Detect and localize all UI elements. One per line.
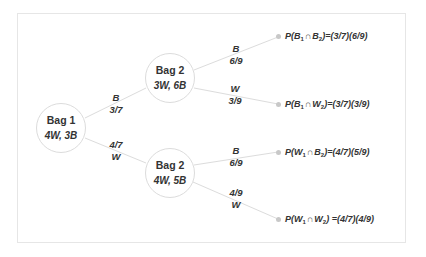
edge-label-upper-o2: W 3/9 bbox=[220, 83, 250, 107]
node-bag2-upper-contents: 3W, 6B bbox=[154, 79, 187, 93]
formula-p: P( bbox=[285, 147, 294, 157]
node-bag2-upper-title: Bag 2 bbox=[156, 64, 185, 77]
outcome-formula-4: P(W1∩W2) =(4/7)(4/9) bbox=[285, 213, 374, 228]
formula-rhs: )=(3/7)(3/9) bbox=[324, 99, 369, 109]
formula-rhs: )=(4/7)(5/9) bbox=[324, 147, 369, 157]
edge-prob: 3/7 bbox=[101, 104, 131, 116]
formula-sub1: 1 bbox=[301, 104, 304, 110]
formula-p: P( bbox=[285, 214, 294, 224]
intersection-symbol: ∩ bbox=[305, 31, 311, 41]
edge-event: W bbox=[220, 83, 250, 95]
edge-prob: 3/9 bbox=[220, 95, 250, 107]
formula-sub1: 1 bbox=[303, 219, 306, 225]
edge-label-lower-o3: B 6/9 bbox=[221, 145, 251, 169]
formula-rhs: ) =(4/7)(4/9) bbox=[326, 214, 374, 224]
edge-prob: 6/9 bbox=[221, 157, 251, 169]
edge-event: W bbox=[221, 199, 251, 211]
outcome-formula-2: P(B1∩W2)=(3/7)(3/9) bbox=[285, 98, 369, 113]
outcome-dot-4 bbox=[276, 217, 281, 222]
edge-prob: 6/9 bbox=[221, 55, 251, 67]
formula-event2: W bbox=[312, 99, 321, 109]
outcome-formula-3: P(W1∩B2)=(4/7)(5/9) bbox=[285, 146, 369, 161]
intersection-symbol: ∩ bbox=[307, 214, 313, 224]
outcome-dot-3 bbox=[276, 150, 281, 155]
edge-event: B bbox=[221, 43, 251, 55]
edge-event: W bbox=[101, 151, 131, 163]
intersection-symbol: ∩ bbox=[305, 99, 311, 109]
node-bag1-title: Bag 1 bbox=[47, 114, 76, 127]
node-bag2-lower-title: Bag 2 bbox=[156, 159, 185, 172]
node-bag2-lower: Bag 2 4W, 5B bbox=[145, 148, 195, 198]
node-bag2-upper: Bag 2 3W, 6B bbox=[145, 53, 195, 103]
formula-sub1: 1 bbox=[303, 152, 306, 158]
outcome-formula-1: P(B1∩B2)=(3/7)(6/9) bbox=[285, 30, 367, 45]
formula-event1: W bbox=[294, 214, 303, 224]
edge-label-root-upper: B 3/7 bbox=[101, 92, 131, 116]
intersection-symbol: ∩ bbox=[307, 147, 313, 157]
formula-sub1: 1 bbox=[301, 36, 304, 42]
edge-prob: 4/9 bbox=[221, 187, 251, 199]
edge-event: B bbox=[101, 92, 131, 104]
edge-label-root-lower: 4/7 W bbox=[101, 139, 131, 163]
node-bag1: Bag 1 4W, 3B bbox=[36, 103, 86, 153]
formula-event2: W bbox=[314, 214, 323, 224]
edge-event: B bbox=[221, 145, 251, 157]
formula-rhs: )=(3/7)(6/9) bbox=[322, 31, 367, 41]
edge-label-upper-o1: B 6/9 bbox=[221, 43, 251, 67]
formula-event1: W bbox=[294, 147, 303, 157]
formula-p: P( bbox=[285, 99, 294, 109]
node-bag1-contents: 4W, 3B bbox=[45, 129, 78, 143]
edge-label-lower-o4: 4/9 W bbox=[221, 187, 251, 211]
edge-prob: 4/7 bbox=[101, 139, 131, 151]
formula-p: P( bbox=[285, 31, 294, 41]
node-bag2-lower-contents: 4W, 5B bbox=[154, 174, 187, 188]
outcome-dot-2 bbox=[276, 102, 281, 107]
outcome-dot-1 bbox=[276, 34, 281, 39]
